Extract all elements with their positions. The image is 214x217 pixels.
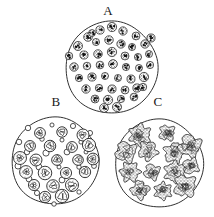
cell-a bbox=[117, 40, 125, 48]
small-circle-b bbox=[52, 202, 56, 206]
clump-c bbox=[183, 157, 200, 174]
cell-a bbox=[136, 65, 143, 72]
clump-c bbox=[115, 141, 137, 164]
cell-a bbox=[117, 95, 124, 102]
cell-b bbox=[38, 166, 52, 180]
cell-b bbox=[47, 180, 60, 193]
cell-b bbox=[55, 189, 68, 202]
cell-a bbox=[96, 61, 104, 69]
cell-a bbox=[82, 85, 90, 93]
clump-c bbox=[119, 162, 142, 182]
small-circle-b bbox=[50, 123, 54, 127]
cell-a bbox=[95, 84, 102, 91]
clump-c bbox=[139, 141, 160, 161]
cell-a bbox=[146, 61, 153, 68]
clump-c bbox=[154, 181, 172, 201]
cell-a bbox=[132, 32, 140, 40]
cell-b bbox=[79, 166, 90, 177]
cell-a bbox=[89, 30, 96, 37]
clump-c bbox=[143, 164, 160, 181]
cell-a bbox=[96, 26, 104, 34]
small-circle-b bbox=[34, 190, 39, 195]
clump-c bbox=[159, 125, 175, 141]
cell-b bbox=[52, 155, 63, 166]
cell-a bbox=[108, 85, 116, 93]
cell-a bbox=[134, 53, 141, 60]
cell-b bbox=[73, 155, 84, 166]
figure-container: A B C bbox=[0, 0, 214, 217]
small-circle-b bbox=[16, 139, 22, 145]
cell-b bbox=[67, 142, 78, 153]
cell-a bbox=[112, 102, 121, 111]
panel-a bbox=[65, 21, 158, 113]
cell-a bbox=[88, 73, 96, 81]
clump-c bbox=[174, 175, 196, 197]
cell-a bbox=[139, 83, 146, 90]
cell-a bbox=[122, 63, 129, 70]
cell-a bbox=[83, 62, 91, 70]
cell-a bbox=[105, 36, 114, 45]
small-circle-b bbox=[70, 123, 75, 128]
cell-a bbox=[94, 50, 103, 59]
cell-a bbox=[139, 72, 148, 81]
cell-b bbox=[87, 153, 99, 165]
cell-a bbox=[92, 38, 99, 45]
cell-a bbox=[70, 63, 78, 71]
panel-label-c: C bbox=[148, 95, 168, 108]
cell-a bbox=[107, 22, 116, 31]
cell-a bbox=[100, 104, 109, 113]
small-circle-b bbox=[60, 138, 64, 142]
cell-a bbox=[127, 75, 135, 83]
small-circle-b bbox=[25, 125, 30, 130]
cell-a bbox=[130, 93, 138, 101]
cell-a bbox=[145, 50, 152, 57]
panel-label-b: B bbox=[46, 95, 66, 108]
cell-a bbox=[119, 27, 127, 35]
cell-b bbox=[28, 179, 39, 190]
cell-a bbox=[75, 74, 82, 81]
figure-illustration bbox=[0, 0, 214, 217]
cell-a bbox=[109, 60, 118, 69]
cell-a bbox=[73, 41, 82, 50]
cell-b bbox=[25, 141, 36, 152]
panel-c bbox=[115, 119, 204, 207]
cell-b bbox=[14, 152, 27, 165]
cell-a bbox=[91, 95, 99, 103]
cell-b bbox=[82, 138, 95, 151]
cell-b bbox=[39, 191, 50, 202]
cell-b bbox=[30, 154, 42, 166]
cell-b bbox=[65, 178, 78, 191]
panel-label-a: A bbox=[98, 4, 118, 17]
cell-b bbox=[20, 166, 33, 179]
clump-c bbox=[130, 180, 151, 200]
cell-a bbox=[121, 52, 129, 60]
cell-a bbox=[80, 51, 88, 59]
cell-a bbox=[107, 47, 116, 56]
cell-a bbox=[101, 72, 108, 79]
cell-b bbox=[35, 128, 46, 139]
cell-a bbox=[121, 86, 129, 94]
cell-b bbox=[44, 140, 56, 152]
panel-b bbox=[12, 117, 99, 206]
cell-a bbox=[147, 34, 155, 42]
cell-a bbox=[128, 43, 135, 50]
cell-a bbox=[103, 95, 112, 104]
cell-a bbox=[65, 52, 72, 59]
small-circle-b bbox=[77, 190, 81, 194]
cell-a bbox=[114, 74, 121, 81]
cell-b bbox=[60, 167, 71, 178]
cell-b bbox=[57, 127, 67, 137]
